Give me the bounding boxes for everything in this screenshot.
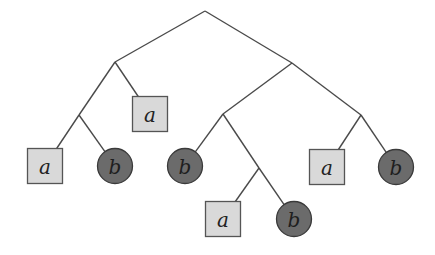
- tree-edge: [223, 63, 292, 114]
- leaf-label: a: [39, 155, 51, 179]
- tree-edge: [223, 114, 259, 168]
- tree-edge: [205, 11, 292, 63]
- leaf-label: a: [321, 156, 333, 180]
- tree-edge: [115, 11, 205, 62]
- leaf-label: a: [144, 103, 156, 127]
- leaf-node-circle: b: [168, 149, 203, 184]
- leaf-node-circle: b: [98, 149, 133, 184]
- leaf-node-square: a: [310, 150, 345, 185]
- leaf-label: b: [109, 155, 122, 179]
- tree-diagram: abababab: [0, 0, 435, 255]
- tree-edge: [79, 62, 115, 115]
- leaf-node-square: a: [133, 97, 168, 132]
- tree-edge: [259, 168, 284, 205]
- tree-edge: [57, 115, 79, 149]
- leaf-label: b: [179, 155, 192, 179]
- leaf-node-square: a: [206, 202, 241, 237]
- tree-edge: [79, 115, 105, 152]
- leaf-label: b: [288, 208, 301, 232]
- leaf-label: a: [217, 208, 229, 232]
- tree-edge: [235, 168, 259, 202]
- tree-edge: [115, 62, 138, 97]
- leaf-node-circle: b: [277, 202, 312, 237]
- leaf-label: b: [390, 156, 403, 180]
- leaf-node-square: a: [28, 149, 63, 184]
- tree-edge: [195, 114, 223, 152]
- tree-edge: [292, 63, 361, 115]
- leaf-node-circle: b: [379, 150, 414, 185]
- tree-edge: [361, 115, 386, 152]
- tree-edge: [338, 115, 361, 150]
